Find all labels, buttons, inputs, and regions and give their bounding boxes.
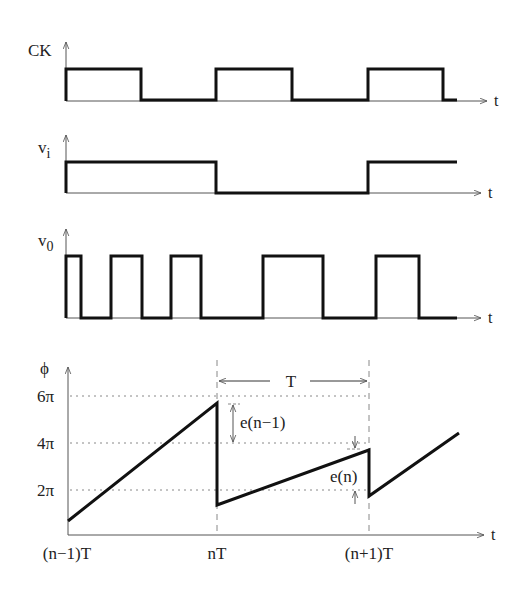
phase-panel: ϕ t 6π 4π 2π (n−1)T nT (n+1)T T e(n−1) e… — [37, 359, 496, 563]
phi-t-label: t — [491, 526, 496, 543]
ytick-4pi: 4π — [37, 434, 55, 453]
xtick-nT: nT — [208, 544, 228, 563]
xtick-n1T: (n+1)T — [345, 544, 394, 563]
v0-t-label: t — [488, 309, 493, 326]
phi-label: ϕ — [40, 359, 49, 378]
v0-label: v0 — [38, 231, 54, 254]
en-label: e(n) — [330, 467, 357, 486]
vi-waveform — [66, 162, 457, 193]
timing-diagram: CK t vi t v0 t ϕ t 6π 4π 2π (n−1)T nT — [0, 0, 524, 595]
en1-label: e(n−1) — [240, 413, 285, 432]
ck-panel: CK t — [28, 41, 499, 109]
ck-waveform — [66, 69, 457, 101]
xtick-n-1T: (n−1)T — [43, 544, 92, 563]
v0-panel: v0 t — [38, 229, 493, 326]
ytick-2pi: 2π — [37, 481, 55, 500]
v0-waveform — [66, 256, 457, 318]
ck-label: CK — [28, 41, 52, 60]
vi-label: vi — [38, 138, 51, 161]
ytick-6pi: 6π — [37, 387, 55, 406]
period-label: T — [286, 372, 297, 391]
vi-t-label: t — [488, 184, 493, 201]
ck-t-label: t — [494, 92, 499, 109]
vi-panel: vi t — [38, 135, 493, 201]
